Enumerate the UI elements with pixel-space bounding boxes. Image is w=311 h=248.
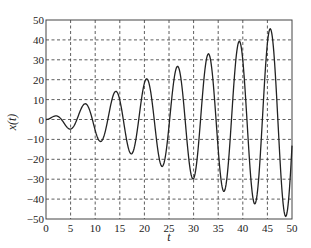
y-tick-label: 10 — [33, 94, 45, 106]
x-tick-label: 30 — [188, 222, 200, 234]
y-tick-label: 30 — [33, 54, 45, 66]
y-tick-label: 20 — [33, 74, 45, 86]
x-tick-label: 50 — [287, 222, 299, 234]
y-tick-label: −30 — [27, 173, 45, 185]
y-tick-label: −20 — [27, 153, 45, 165]
y-tick-label: 50 — [33, 14, 45, 26]
x-tick-label: 40 — [237, 222, 249, 234]
y-tick-label: 40 — [33, 34, 45, 46]
series-line-x-of-t — [46, 29, 292, 217]
y-tick-label: 0 — [39, 114, 45, 126]
x-tick-label: 10 — [90, 222, 102, 234]
line-chart: 05101520253035404550 −50−40−30−20−100102… — [0, 0, 311, 248]
x-tick-label: 0 — [43, 222, 49, 234]
x-tick-label: 35 — [213, 222, 225, 234]
x-tick-label: 45 — [262, 222, 274, 234]
y-axis-ticks: −50−40−30−20−1001020304050 — [27, 14, 45, 225]
y-tick-label: −10 — [27, 133, 45, 145]
x-tick-label: 15 — [114, 222, 126, 234]
x-tick-label: 20 — [139, 222, 151, 234]
y-tick-label: −50 — [27, 213, 45, 225]
y-axis-label: x(t) — [5, 114, 19, 132]
y-tick-label: −40 — [27, 193, 45, 205]
x-tick-label: 5 — [68, 222, 74, 234]
